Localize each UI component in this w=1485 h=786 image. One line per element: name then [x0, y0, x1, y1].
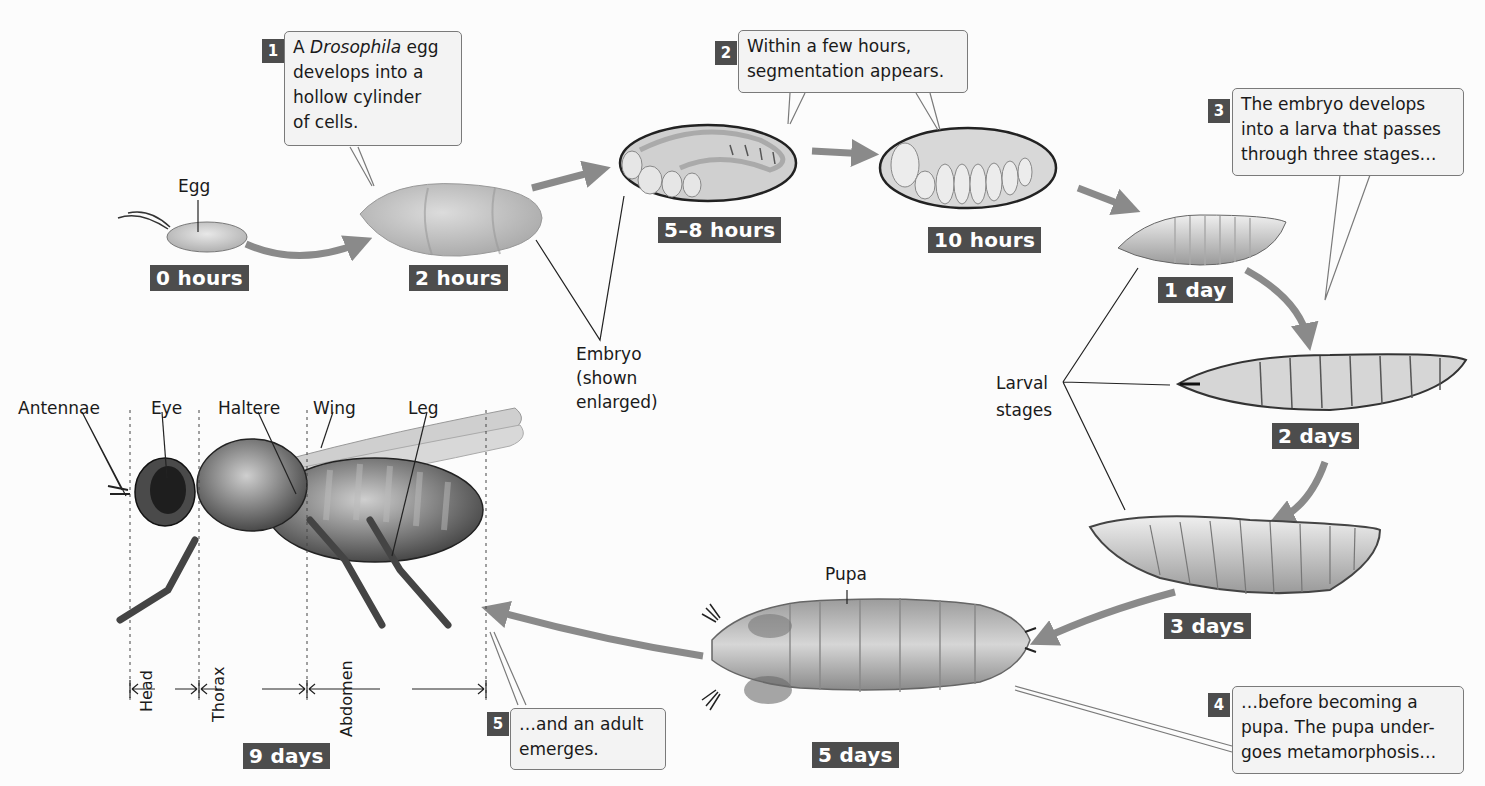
arrow-late-to-larva1: [1078, 188, 1130, 208]
thorax-region-label: Thorax: [209, 666, 228, 722]
arrow-larva2-to-larva3: [1278, 462, 1325, 520]
egg-illustration: [118, 212, 247, 252]
time-badge-2-hours: 2 hours: [409, 265, 508, 291]
leg-label: Leg: [408, 397, 438, 420]
arrow-segmented-to-late: [812, 151, 868, 154]
time-badge-5-days: 5 days: [812, 742, 899, 768]
larva-day2-illustration: [1178, 354, 1466, 410]
larval-stages-label: Larval stages: [996, 370, 1052, 424]
egg-label: Egg: [178, 175, 210, 198]
time-badge-0-hours: 0 hours: [150, 265, 249, 291]
larva-day1-illustration: [1118, 215, 1286, 265]
time-badge-2-days: 2 days: [1272, 423, 1359, 449]
callout-1: A Drosophila egg develops into a hollow …: [284, 31, 462, 146]
haltere-label: Haltere: [218, 397, 280, 420]
cylinder-embryo-illustration: [360, 184, 542, 257]
time-badge-10-hours: 10 hours: [928, 227, 1041, 253]
abdomen-region-label: Abdomen: [337, 660, 356, 737]
time-badge-3-days: 3 days: [1164, 613, 1251, 639]
larva-day3-illustration: [1090, 516, 1380, 594]
time-badge-9-days: 9 days: [243, 743, 330, 769]
late-embryo-illustration: [880, 128, 1056, 208]
eye-label: Eye: [151, 397, 182, 420]
pupa-illustration: [702, 598, 1036, 710]
step-number-1: 1: [262, 39, 284, 63]
callout-5: …and an adult emerges.: [510, 708, 666, 770]
drosophila-life-cycle-diagram: 0 hours 2 hours 5–8 hours 10 hours 1 day…: [0, 0, 1485, 786]
step-number-3: 3: [1208, 99, 1230, 123]
adult-fly-illustration: [108, 408, 523, 700]
callout-3: The embryo develops into a larva that pa…: [1232, 88, 1464, 176]
step-number-4: 4: [1208, 693, 1230, 717]
time-badge-1-day: 1 day: [1158, 277, 1233, 303]
arrow-larva1-to-larva2: [1246, 270, 1308, 340]
embryo-label: Embryo (shown enlarged): [576, 342, 658, 414]
arrow-egg-to-cylinder: [246, 242, 362, 256]
arrow-cylinder-to-segmented: [532, 170, 600, 188]
step-number-2: 2: [715, 41, 737, 65]
head-region-label: Head: [137, 670, 156, 712]
antennae-label: Antennae: [18, 397, 100, 420]
wing-label: Wing: [313, 397, 356, 420]
callout-4: …before becoming a pupa. The pupa under-…: [1232, 686, 1464, 774]
segmented-embryo-illustration: [620, 125, 796, 201]
arrow-pupa-to-adult: [492, 610, 703, 656]
time-badge-5-8-hours: 5–8 hours: [658, 217, 781, 243]
arrow-larva3-to-pupa: [1040, 592, 1175, 640]
callout-2: Within a few hours, segmentation appears…: [738, 30, 968, 93]
step-number-5: 5: [487, 712, 509, 736]
pupa-label: Pupa: [825, 563, 867, 586]
